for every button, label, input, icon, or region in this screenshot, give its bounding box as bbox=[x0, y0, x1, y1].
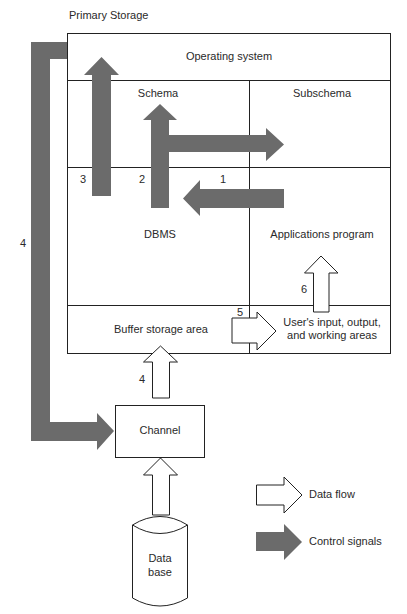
legend-data-flow-icon bbox=[257, 477, 303, 513]
user-areas-label-line2: and working areas bbox=[287, 329, 377, 341]
legend-data-flow-label: Data flow bbox=[309, 488, 355, 500]
subschema-label: Subschema bbox=[293, 87, 351, 99]
operating-system-label: Operating system bbox=[186, 50, 272, 62]
step-label-1: 1 bbox=[220, 173, 226, 185]
step-label-3: 3 bbox=[80, 173, 86, 185]
database-label-line2: base bbox=[148, 566, 172, 578]
step-label-4-control: 4 bbox=[20, 237, 26, 249]
database-label-line1: Data bbox=[148, 552, 171, 564]
step-label-4-data: 4 bbox=[139, 373, 145, 385]
buffer-storage-label: Buffer storage area bbox=[114, 323, 208, 335]
legend-control-signals-icon bbox=[256, 524, 302, 560]
channel-label: Channel bbox=[140, 424, 181, 436]
applications-program-label: Applications program bbox=[270, 228, 373, 240]
legend-control-signals-label: Control signals bbox=[309, 535, 382, 547]
step-label-6: 6 bbox=[301, 283, 307, 295]
dbms-label: DBMS bbox=[144, 228, 176, 240]
data-arrow-db-to-channel bbox=[144, 458, 178, 515]
step-label-5: 5 bbox=[237, 306, 243, 318]
step-label-2: 2 bbox=[139, 173, 145, 185]
schema-label: Schema bbox=[138, 87, 178, 99]
primary-storage-title: Primary Storage bbox=[69, 9, 148, 21]
user-areas-label-line1: User's input, output, bbox=[283, 316, 381, 328]
